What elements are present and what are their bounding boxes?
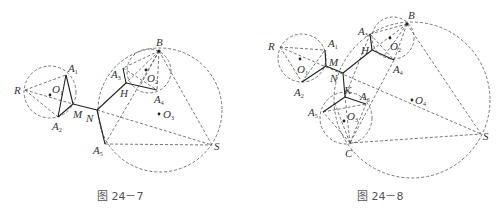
- label-h: H: [119, 87, 129, 99]
- point-b-dot: [157, 49, 160, 52]
- label-a3: A3: [357, 25, 368, 38]
- label-a2: A2: [51, 120, 62, 133]
- label-h: H: [360, 44, 370, 56]
- figure-caption: 图 24－8: [357, 190, 404, 203]
- center-dot-o4: [411, 99, 414, 102]
- point-b-dot: [405, 22, 408, 25]
- label-n: N: [85, 112, 94, 124]
- label-o2: O2: [147, 72, 158, 85]
- label-a4: A4: [153, 93, 164, 106]
- figure-caption: 图 24－7: [97, 190, 144, 203]
- label-n: N: [329, 72, 338, 84]
- label-s: S: [483, 130, 489, 142]
- label-a1: A1: [67, 62, 78, 75]
- solid-lines: [302, 34, 394, 112]
- center-dot-o3: [158, 113, 161, 116]
- label-b: B: [408, 9, 415, 21]
- label-a1: A1: [327, 37, 338, 50]
- label-a4: A4: [392, 63, 403, 76]
- label-o3: O3: [163, 108, 174, 121]
- label-m: M: [72, 108, 83, 120]
- label-o1: O1: [297, 63, 308, 76]
- label-a5: A5: [307, 106, 318, 119]
- figure-24-8: R O1 A1 A2 M N H A3 B O2 A4 K A6 A5 O3 C…: [267, 9, 490, 203]
- label-r: R: [267, 40, 275, 52]
- geometry-diagram: R O1 A1 A2 M N H A3 B O2 A4 O3 A5 S 图 24…: [0, 0, 496, 214]
- center-dot-o3: [343, 120, 346, 123]
- label-a6: A6: [359, 90, 370, 103]
- figure-24-7: R O1 A1 A2 M N H A3 B O2 A4 O3 A5 S 图 24…: [13, 36, 222, 203]
- label-s: S: [214, 140, 220, 152]
- label-a5: A5: [92, 144, 103, 157]
- label-k: K: [343, 84, 352, 96]
- center-dot-o2: [145, 69, 148, 72]
- center-dot-o1: [49, 94, 52, 97]
- label-o1: O1: [52, 83, 63, 96]
- label-r: R: [13, 84, 21, 96]
- solid-lines: [58, 68, 157, 144]
- center-dot-o1: [299, 58, 302, 61]
- center-dot-o2: [389, 37, 392, 40]
- label-a3: A3: [110, 68, 121, 81]
- label-a2: A2: [293, 86, 304, 99]
- dashed-lines: [280, 24, 481, 143]
- circle-o3: [98, 48, 222, 172]
- label-b: B: [156, 36, 163, 48]
- label-c: C: [345, 147, 353, 159]
- label-o4: O4: [415, 94, 426, 107]
- label-o3: O3: [347, 110, 358, 123]
- label-o2: O2: [390, 40, 401, 53]
- label-m: M: [328, 56, 339, 68]
